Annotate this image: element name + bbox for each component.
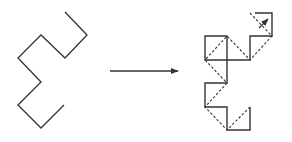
diagram-canvas — [0, 0, 292, 142]
folded-curve-dashed — [205, 13, 272, 130]
square-construction — [205, 13, 272, 130]
zigzag-curve — [18, 12, 87, 128]
